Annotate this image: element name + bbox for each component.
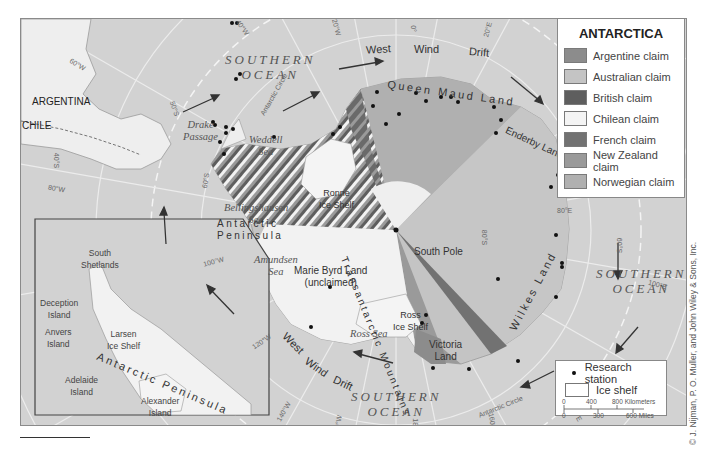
label-southern-ocean-right: SOUTHERN OCEAN: [596, 266, 686, 296]
label-ronne-ice-shelf: Ronne Ice Shelf: [319, 187, 354, 211]
label-wind-drift-top: Drift: [469, 45, 490, 59]
scale-km-800: 800 Kilometers: [612, 398, 655, 405]
scale-mi-0: 0: [562, 412, 566, 419]
label-chile: CHILE: [22, 120, 51, 131]
label-80e: 80°E: [557, 207, 572, 214]
label-south-shetlands: South Shetlands: [81, 247, 119, 271]
legend-item-french: French claim: [564, 129, 678, 150]
label-0: 0°: [410, 25, 417, 32]
label-antarctic-peninsula: Antarctic Peninsula: [217, 218, 283, 242]
label-adelaide-island: Adelaide Island: [65, 374, 98, 398]
label-40s: 40°S: [53, 153, 60, 168]
label-wind-wind-top: Wind: [414, 43, 439, 55]
label-south-pole: South Pole: [414, 246, 463, 258]
swatch-australian: [564, 69, 587, 84]
legend-label: Research station: [585, 361, 660, 385]
legend-item-australian: Australian claim: [564, 66, 678, 87]
legend-label: Norwegian claim: [593, 176, 674, 188]
scale-bar: 0 400 800 Kilometers 0 300 600 Miles: [562, 399, 660, 419]
legend-label: Australian claim: [593, 71, 671, 83]
legend-label: French claim: [593, 134, 656, 146]
scale-km-400: 400: [586, 398, 597, 405]
ice-shelf-swatch: [565, 383, 589, 397]
legend-label: New Zealand claim: [593, 149, 678, 173]
swatch-chilean: [564, 111, 587, 126]
scale-km-0: 0: [562, 398, 566, 405]
legend-item-norwegian: Norwegian claim: [564, 171, 678, 192]
label-southern-ocean-top: SOUTHERN OCEAN: [225, 52, 315, 82]
legend-label: British claim: [593, 92, 652, 104]
swatch-new-zealand: [564, 153, 587, 168]
copyright-credit: © J. Nijman, P. O. Muller, and John Wile…: [688, 242, 698, 445]
label-larsen-ice-shelf: Larsen Ice Shelf: [107, 328, 140, 352]
south-america: [21, 19, 171, 169]
symbols-legend: Research station Ice shelf 0 400 800 Kil…: [555, 360, 667, 416]
research-station-icon: [572, 371, 576, 375]
label-alexander-island: Alexander Island: [141, 395, 179, 419]
bottom-rule: [20, 437, 90, 438]
legend-item-new-zealand: New Zealand claim: [564, 150, 678, 171]
legend-title: ANTARCTICA: [564, 26, 678, 41]
swatch-argentine: [564, 48, 587, 63]
legend-item-argentine: Argentine claim: [564, 45, 678, 66]
label-deception-island: Deception Island: [40, 297, 78, 321]
swatch-british: [564, 90, 587, 105]
scale-mi-600: 600 Miles: [626, 412, 654, 419]
label-weddell-sea: Weddell Sea: [249, 134, 282, 158]
label-60s-right: 60°S: [616, 238, 623, 253]
legend-item-british: British claim: [564, 87, 678, 108]
swatch-french: [564, 132, 587, 147]
label-180: 180°: [412, 418, 419, 426]
claims-legend: ANTARCTICA Argentine claim Australian cl…: [557, 18, 685, 198]
label-drake-passage: Drake Passage: [183, 119, 218, 143]
label-ross-ice-shelf: Ross Ice Shelf: [393, 309, 428, 333]
legend-research-station: Research station: [562, 364, 660, 381]
swatch-norwegian: [564, 174, 587, 189]
label-argentina: ARGENTINA: [32, 96, 90, 107]
legend-item-chilean: Chilean claim: [564, 108, 678, 129]
legend-label: Chilean claim: [593, 113, 659, 125]
label-victoria-land: Victoria Land: [429, 339, 462, 363]
label-amundsen-sea: Amundsen Sea: [254, 254, 298, 278]
scale-mi-300: 300: [593, 412, 604, 419]
legend-label: Ice shelf: [596, 384, 637, 396]
label-wind-west-top: West: [366, 42, 392, 56]
label-anvers-island: Anvers Island: [45, 326, 71, 350]
legend-label: Argentine claim: [593, 50, 669, 62]
label-80s: 80°S: [481, 230, 488, 245]
